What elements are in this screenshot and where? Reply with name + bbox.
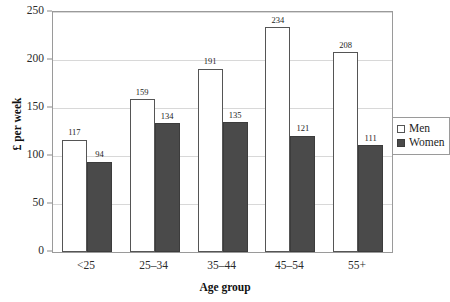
bar-men-35–44: 191 [198,69,223,252]
bar-value-label: 111 [365,134,377,143]
y-axis-tick-label: 200 [27,53,44,65]
bar-women-25–34: 134 [155,123,180,252]
bar-women-45–54: 121 [290,136,315,252]
y-axis-title: £ per week [11,79,23,169]
x-axis-tick-label: 35–44 [207,260,236,272]
plot-area: 11794159134191135234121208111 [52,11,393,253]
y-axis-tick-label: 0 [38,245,44,257]
legend-label: Men [409,123,430,135]
bar-men-<25: 117 [62,140,87,252]
bar-group: 191135 [198,12,248,252]
x-axis-tick-label: 25–34 [139,260,168,272]
legend-swatch-women-icon [397,139,405,147]
y-axis-tick-label: 50 [33,197,45,209]
bar-value-label: 94 [95,150,104,159]
x-axis-tick-label: <25 [77,260,95,272]
bar-chart: 050100150200250 £ per week 1179415913419… [0,0,450,302]
bar-women-35–44: 135 [223,122,248,252]
bar-men-55+: 208 [333,52,358,252]
bar-value-label: 135 [229,111,242,120]
bar-men-25–34: 159 [130,99,155,252]
bar-value-label: 159 [136,88,149,97]
x-axis-title: Age group [0,281,450,293]
x-axis-tick-label: 55+ [348,260,366,272]
legend-item-women: Women [397,136,444,150]
bar-women-55+: 111 [358,145,383,252]
chart-legend: MenWomen [392,117,450,155]
bar-value-label: 121 [296,124,309,133]
bar-value-label: 191 [204,57,217,66]
bar-value-label: 134 [161,112,174,121]
legend-label: Women [409,137,444,149]
x-axis-tick-label: 45–54 [275,260,304,272]
bar-group: 208111 [333,12,383,252]
bar-men-45–54: 234 [265,27,290,252]
y-axis-tick-label: 150 [27,101,44,113]
legend-swatch-men-icon [397,125,405,133]
legend-item-men: Men [397,122,444,136]
bar-value-label: 208 [339,41,352,50]
bar-value-label: 117 [68,128,80,137]
bar-group: 11794 [62,12,112,252]
bar-group: 159134 [130,12,180,252]
y-axis: 050100150200250 [0,0,52,302]
y-axis-tick-label: 100 [27,149,44,161]
bar-women-<25: 94 [87,162,112,252]
y-axis-tick-label: 250 [27,5,44,17]
bar-value-label: 234 [271,16,284,25]
bar-group: 234121 [265,12,315,252]
